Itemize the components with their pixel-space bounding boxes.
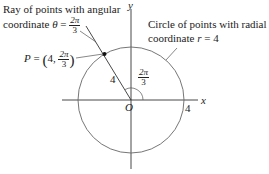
circle-annotation-prefix: coordinate bbox=[148, 32, 197, 44]
angle-label: 2π3 bbox=[138, 68, 149, 87]
angle-fraction: 2π3 bbox=[138, 68, 149, 87]
ray-leader-line bbox=[80, 31, 96, 42]
origin-label: O bbox=[125, 101, 133, 113]
equals-sign: = bbox=[58, 18, 70, 30]
circle-annotation-line2: coordinate r = 4 bbox=[148, 32, 219, 44]
y-axis-label: y bbox=[128, 0, 133, 11]
fraction-denominator: 3 bbox=[58, 60, 69, 69]
point-r-value: 4, bbox=[47, 52, 55, 64]
circle-leader-line bbox=[166, 48, 177, 60]
point-name: P bbox=[24, 52, 31, 64]
point-label: P = (4, 2π3) bbox=[24, 50, 74, 69]
x-intercept-label: 4 bbox=[185, 102, 191, 114]
circle-annotation-line1: Circle of points with radial bbox=[148, 18, 267, 30]
fraction-denominator: 3 bbox=[138, 78, 149, 87]
ray-annotation-prefix: coordinate bbox=[3, 18, 52, 30]
point-theta-fraction: 2π3 bbox=[58, 50, 69, 69]
fraction-denominator: 3 bbox=[69, 26, 80, 35]
point-p bbox=[103, 52, 107, 56]
ray-annotation-line2: coordinate θ = 2π3 bbox=[3, 16, 80, 35]
equals-sign: = bbox=[31, 52, 43, 64]
x-axis-label: x bbox=[201, 94, 206, 106]
segment-length-label: 4 bbox=[110, 73, 116, 85]
close-paren: ) bbox=[69, 52, 74, 68]
ray-angle-fraction: 2π3 bbox=[69, 16, 80, 35]
ray-annotation-line1: Ray of points with angular bbox=[3, 3, 120, 15]
circle-value: = 4 bbox=[201, 32, 218, 44]
